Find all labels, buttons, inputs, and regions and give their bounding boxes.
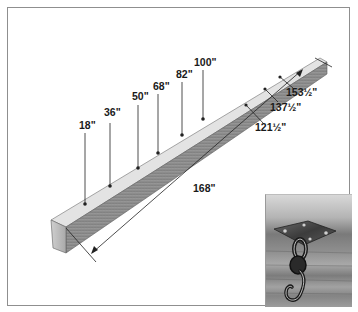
- top-mark-68: [156, 94, 160, 155]
- side-mark-label: 153½": [286, 86, 317, 98]
- top-mark-50: [136, 105, 140, 170]
- total-length-label: 168": [193, 182, 216, 194]
- hook-hardware-photo: [266, 195, 352, 307]
- top-mark-label: 36": [104, 106, 121, 118]
- top-mark-100: [201, 70, 205, 121]
- top-mark-label: 82": [176, 68, 193, 80]
- inset-photo-hook: [265, 194, 352, 307]
- top-mark-label: 18": [79, 119, 96, 131]
- top-mark-36: [108, 123, 112, 188]
- side-mark-label: 137½": [270, 101, 301, 113]
- top-mark-18: [83, 133, 87, 206]
- top-mark-82: [180, 82, 184, 137]
- arrowhead-left-icon: [91, 246, 98, 254]
- top-mark-label: 68": [153, 80, 170, 92]
- top-mark-label: 50": [132, 90, 149, 102]
- side-mark-label: 121½": [255, 121, 286, 133]
- swivel-link: [290, 256, 306, 274]
- top-mark-label: 100": [194, 56, 217, 68]
